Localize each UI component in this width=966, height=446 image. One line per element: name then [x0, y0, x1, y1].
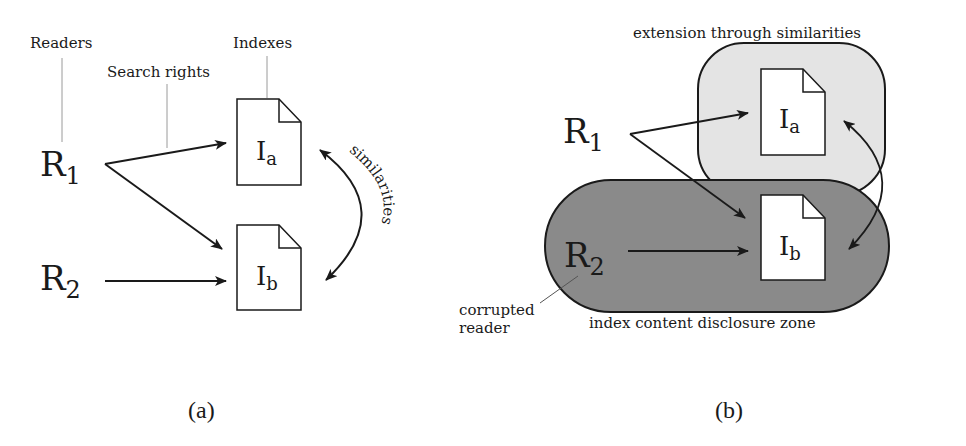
search-rights-label: Search rights: [107, 63, 210, 81]
panel-b: extension through similarities index con…: [459, 24, 889, 423]
similarities-arrow: [320, 150, 362, 280]
extension-zone-label: extension through similarities: [633, 24, 861, 42]
figure-canvas: Readers Search rights Indexes R1 R2 Ia I…: [0, 0, 966, 446]
panel-a: Readers Search rights Indexes R1 R2 Ia I…: [30, 34, 398, 423]
similarities-label: similarities: [346, 140, 398, 226]
indexes-label: Indexes: [233, 34, 292, 52]
search-right-arrow-r1-ib: [105, 164, 222, 249]
document-icon: [761, 69, 825, 155]
disclosure-zone: [545, 180, 889, 312]
document-icon: [237, 225, 301, 310]
reader-r2: R2: [40, 258, 81, 304]
readers-label: Readers: [30, 34, 92, 52]
reader-r1: R1: [40, 144, 81, 190]
document-icon: [761, 195, 825, 280]
search-right-arrow-r1-ia: [105, 143, 226, 164]
index-document-ib: Ib: [237, 225, 301, 310]
disclosure-zone-label: index content disclosure zone: [589, 314, 816, 332]
index-document-ib: Ib: [761, 195, 825, 280]
reader-r1: R1: [563, 111, 604, 157]
corrupted-reader-label-line2: reader: [459, 319, 510, 337]
corrupted-reader-label-line1: corrupted: [459, 301, 535, 319]
document-icon: [237, 99, 301, 185]
index-document-ia: Ia: [761, 69, 825, 155]
index-document-ia: Ia: [237, 99, 301, 185]
caption-a: (a): [188, 397, 215, 423]
caption-b: (b): [715, 397, 743, 423]
